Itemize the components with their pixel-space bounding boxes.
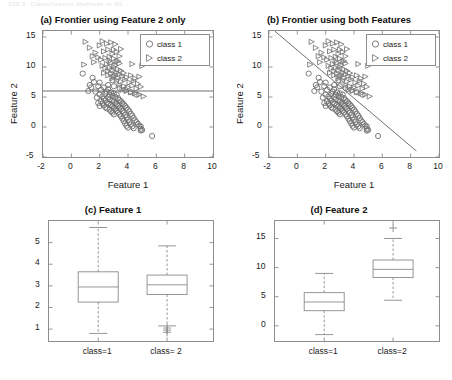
triangle-right-marker <box>117 54 122 59</box>
x-tick-label: 10 <box>433 161 442 171</box>
y-tick-label: 5 <box>257 90 262 100</box>
boxplot-box <box>304 273 344 334</box>
y-tick-label: 10 <box>252 60 261 70</box>
legend-label-class1: class 1 <box>383 40 408 49</box>
circle-marker <box>111 84 116 89</box>
triangle-right-marker <box>343 54 348 59</box>
y-tick-label: 3 <box>35 279 40 289</box>
panel-a-legend: class 1 class 2 <box>140 34 210 66</box>
x-tick-label: 8 <box>181 161 186 171</box>
triangle-right-marker <box>363 74 368 79</box>
x-tick-label: 8 <box>407 161 412 171</box>
panel-c-plot-area <box>48 220 214 342</box>
x-tick-label: 2 <box>322 161 327 171</box>
y-tick-label: 0 <box>257 120 262 130</box>
y-tick-label: 0 <box>31 120 36 130</box>
triangle-right-marker <box>83 39 88 44</box>
x-category-label: class= 2 <box>145 346 187 356</box>
triangle-right-marker <box>309 39 314 44</box>
iqr-box <box>373 260 413 277</box>
x-tick-label: 0 <box>294 161 299 171</box>
triangle-right-marker <box>113 42 118 47</box>
circle-marker <box>80 71 85 76</box>
boxplot-box <box>147 246 187 336</box>
triangle-right-marker <box>367 94 372 99</box>
figure-page: 100 2. Classification Methods in ML (a) … <box>0 0 452 380</box>
triangle-right-marker <box>87 45 92 50</box>
panel-b-xlabel: Feature 1 <box>268 179 440 190</box>
panel-b: (b) Frontier using both Features Feature… <box>226 14 452 194</box>
x-tick-label: 4 <box>125 161 130 171</box>
triangle-right-marker <box>364 84 369 89</box>
y-tick-label: 0 <box>261 319 266 329</box>
panel-a: (a) Frontier using Feature 2 only Featur… <box>0 14 226 194</box>
circle-marker <box>312 88 317 93</box>
x-tick-label: 0 <box>68 161 73 171</box>
legend-entry-class2: class 2 <box>141 51 211 65</box>
legend-label-class1: class 1 <box>157 40 182 49</box>
panel-a-ylabel: Feature 2 <box>8 83 19 124</box>
legend-entry-class2: class 2 <box>367 51 437 65</box>
triangle-right-marker <box>130 61 135 66</box>
x-category-label: class=1 <box>302 346 344 356</box>
x-tick-label: 6 <box>153 161 158 171</box>
panel-b-title: (b) Frontier using both Features <box>226 14 452 25</box>
x-tick-label: 10 <box>207 161 216 171</box>
triangle-right-marker <box>82 62 87 67</box>
panel-b-legend: class 1 class 2 <box>366 34 436 66</box>
triangle-right-marker <box>138 84 143 89</box>
circle-marker <box>149 133 154 138</box>
y-tick-label: 5 <box>31 90 36 100</box>
x-tick-label: 4 <box>351 161 356 171</box>
triangle-right-marker <box>313 45 318 50</box>
circle-marker <box>375 133 380 138</box>
panel-c-title: (c) Feature 1 <box>0 204 226 215</box>
circle-marker <box>371 40 380 49</box>
circle-marker <box>306 71 311 76</box>
x-category-label: class=1 <box>76 346 118 356</box>
y-tick-label: -5 <box>252 150 260 160</box>
legend-entry-class1: class 1 <box>367 37 437 51</box>
legend-entry-class1: class 1 <box>141 37 211 51</box>
boxplot-box <box>373 224 413 300</box>
x-tick-label: -2 <box>263 161 271 171</box>
panel-c: (c) Feature 1 12345class=1class= 2 <box>0 198 226 380</box>
legend-label-class2: class 2 <box>157 54 182 63</box>
y-tick-label: 2 <box>35 300 40 310</box>
triangle-right-marker <box>119 46 124 51</box>
y-tick-label: 5 <box>261 290 266 300</box>
panel-a-title: (a) Frontier using Feature 2 only <box>0 14 226 25</box>
triangle-right-marker <box>339 42 344 47</box>
triangle-right-marker <box>356 61 361 66</box>
triangle-right-marker <box>345 46 350 51</box>
triangle-right-marker <box>371 54 380 63</box>
x-tick-label: 6 <box>379 161 384 171</box>
panel-d-plot-area <box>274 220 440 342</box>
y-tick-label: 10 <box>26 60 35 70</box>
panel-a-xlabel: Feature 1 <box>42 179 214 190</box>
x-tick-label: 2 <box>96 161 101 171</box>
triangle-right-marker <box>145 54 154 63</box>
legend-label-class2: class 2 <box>383 54 408 63</box>
x-tick-label: -2 <box>37 161 45 171</box>
y-tick-label: 15 <box>252 30 261 40</box>
y-tick-label: -5 <box>26 150 34 160</box>
y-tick-label: 5 <box>35 236 40 246</box>
y-tick-label: 15 <box>256 231 265 241</box>
y-tick-label: 1 <box>35 322 40 332</box>
y-tick-label: 15 <box>26 30 35 40</box>
circle-marker <box>145 40 154 49</box>
panel-b-ylabel: Feature 2 <box>234 83 245 124</box>
boxplot-box <box>78 227 118 333</box>
x-category-label: class=2 <box>371 346 413 356</box>
y-tick-label: 4 <box>35 257 40 267</box>
page-running-header: 100 2. Classification Methods in ML <box>8 1 238 9</box>
triangle-right-marker <box>141 94 146 99</box>
triangle-right-marker <box>137 74 142 79</box>
panel-d: (d) Feature 2 051015class=1class=2 <box>226 198 452 380</box>
panel-d-title: (d) Feature 2 <box>226 204 452 215</box>
y-tick-label: 10 <box>256 261 265 271</box>
